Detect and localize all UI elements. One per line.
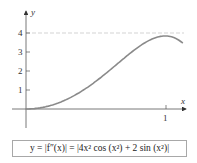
y-ticks — [26, 33, 30, 90]
formula-box: y = |f″(x)| = |4x² cos (x²) + 2 sin (x²)… — [12, 140, 187, 157]
y-tick-label-1: 1 — [18, 85, 23, 95]
y-tick-label-4: 4 — [18, 28, 23, 38]
y-axis-label: y — [30, 7, 35, 17]
x-axis-label: x — [180, 96, 185, 106]
y-tick-label-2: 2 — [18, 66, 23, 76]
y-tick-label-3: 3 — [18, 47, 23, 57]
formula-text: y = |f″(x)| = |4x² cos (x²) + 2 sin (x²)… — [30, 143, 169, 153]
function-curve — [26, 36, 183, 109]
x-tick-label-1: 1 — [163, 113, 168, 123]
chart: 1 2 3 4 1 y x — [0, 0, 197, 163]
